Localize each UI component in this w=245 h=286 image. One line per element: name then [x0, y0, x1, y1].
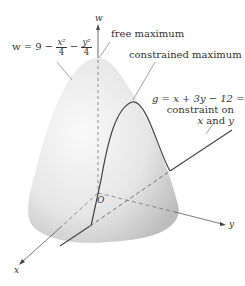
y-axis	[175, 212, 222, 224]
constrained-maximum-label: constrained maximum	[129, 50, 242, 60]
paraboloid-diagram: w y x O w = 9 − x² 4 − y² 4 free maximum…	[0, 0, 245, 286]
constraint-annotation: g = x + 3y − 12 = 0 constraint on x and …	[152, 93, 234, 126]
free-maximum-label: free maximum	[111, 29, 184, 39]
fraction-x: x² 4	[56, 38, 66, 56]
constraint-equation: g = x + 3y − 12 = 0	[152, 93, 234, 104]
constraint-text-1: constraint on	[152, 104, 234, 115]
fraction-y: y² 4	[81, 38, 91, 56]
w-axis-arrow	[96, 24, 100, 30]
leader-equation	[57, 62, 72, 80]
w-axis-label: w	[95, 14, 103, 23]
constraint-text-2: x and y	[152, 115, 234, 126]
constraint-line-back	[170, 130, 232, 171]
x-axis-label: x	[14, 266, 19, 275]
equation-prefix: w = 9 −	[12, 41, 53, 52]
surface-equation: w = 9 − x² 4 − y² 4	[12, 38, 92, 56]
leader-free-max	[99, 42, 110, 58]
y-axis-label: y	[229, 220, 234, 229]
y-axis-arrow	[220, 222, 226, 226]
origin-label: O	[97, 196, 104, 205]
paraboloid-surface	[28, 58, 179, 243]
